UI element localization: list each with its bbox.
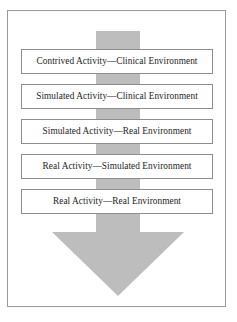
stage-box-contrived-clinical[interactable]: Contrived Activity—Clinical Environment [21, 49, 213, 74]
stage-label: Real Activity—Real Environment [53, 197, 181, 206]
stage-box-real-real[interactable]: Real Activity—Real Environment [21, 189, 213, 214]
stage-list: Contrived Activity—Clinical Environment … [21, 49, 213, 229]
stage-label: Real Activity—Simulated Environment [43, 162, 192, 171]
stage-box-real-simulated[interactable]: Real Activity—Simulated Environment [21, 154, 213, 179]
stage-label: Contrived Activity—Clinical Environment [36, 57, 197, 66]
figure-container: Contrived Activity—Clinical Environment … [0, 0, 237, 322]
stage-label: Simulated Activity—Real Environment [43, 127, 192, 136]
stage-box-simulated-clinical[interactable]: Simulated Activity—Clinical Environment [21, 84, 213, 109]
stage-label: Simulated Activity—Clinical Environment [36, 92, 198, 101]
stage-box-simulated-real[interactable]: Simulated Activity—Real Environment [21, 119, 213, 144]
